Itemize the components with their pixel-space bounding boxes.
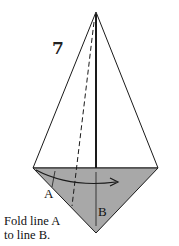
caption-line-1: Fold line A xyxy=(4,214,60,228)
origami-step-diagram xyxy=(0,0,179,246)
caption-line-2: to line B. xyxy=(4,228,60,242)
label-a: A xyxy=(44,186,53,202)
instruction-caption: Fold line A to line B. xyxy=(4,214,60,242)
label-b: B xyxy=(98,204,107,220)
step-number: 7 xyxy=(52,38,64,58)
